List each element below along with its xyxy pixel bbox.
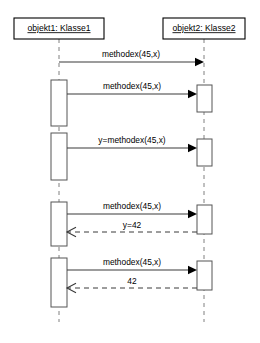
filled-arrowhead-icon bbox=[195, 58, 204, 66]
message-label: methodex(45,x) bbox=[103, 81, 161, 91]
activation-bar[interactable] bbox=[51, 133, 67, 180]
activation-bar[interactable] bbox=[197, 85, 212, 112]
filled-arrowhead-icon bbox=[188, 210, 197, 218]
sequence-diagram-canvas: methodex(45,x)methodex(45,x)y=methodex(4… bbox=[0, 0, 260, 343]
activation-bars-group bbox=[51, 80, 212, 307]
activation-bar[interactable] bbox=[197, 205, 212, 234]
participant-label-objekt2: objekt2: Klasse2 bbox=[172, 23, 235, 33]
message-label: methodex(45,x) bbox=[103, 257, 161, 267]
message-label: methodex(45,x) bbox=[102, 49, 160, 59]
activation-bar[interactable] bbox=[51, 80, 67, 126]
message-label: y=42 bbox=[123, 220, 142, 230]
activation-bar[interactable] bbox=[197, 139, 212, 166]
participant-headers-group: objekt1: Klasse1objekt2: Klasse2 bbox=[14, 18, 245, 39]
messages-group: methodex(45,x)methodex(45,x)y=methodex(4… bbox=[59, 49, 204, 293]
sequence-diagram-svg: methodex(45,x)methodex(45,x)y=methodex(4… bbox=[0, 0, 260, 343]
message-label: methodex(45,x) bbox=[103, 201, 161, 211]
filled-arrowhead-icon bbox=[188, 266, 197, 274]
participant-label-objekt1: objekt1: Klasse1 bbox=[27, 23, 90, 33]
activation-bar[interactable] bbox=[51, 202, 67, 246]
message-label: 42 bbox=[127, 276, 137, 286]
activation-bar[interactable] bbox=[197, 261, 212, 290]
message-label: y=methodex(45,x) bbox=[98, 135, 165, 145]
filled-arrowhead-icon bbox=[188, 144, 197, 152]
activation-bar[interactable] bbox=[51, 258, 67, 307]
filled-arrowhead-icon bbox=[188, 90, 197, 98]
